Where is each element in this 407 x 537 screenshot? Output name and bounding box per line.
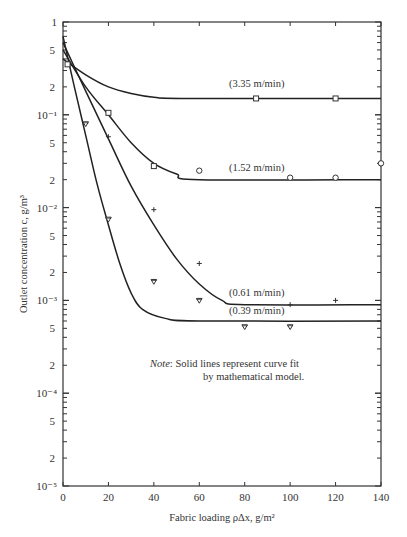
y-tick-label: 2 <box>50 266 56 278</box>
y-tick-label: 10⁻¹ <box>37 109 57 121</box>
circle-marker <box>287 175 292 180</box>
y-axis-title: Outlet concentration c, g/m³ <box>18 195 29 313</box>
square-marker <box>106 110 111 115</box>
note-line1: : Solid lines represent curve fit <box>170 358 299 369</box>
y-tick-label: 5 <box>50 322 56 334</box>
y-tick-label: 1 <box>52 16 58 28</box>
circle-marker <box>197 168 202 173</box>
x-tick-label: 40 <box>148 491 160 503</box>
x-axis-title: Fabric loading ρΔx, g/m² <box>169 512 275 523</box>
chart: 02040608010012014015210⁻¹5210⁻²5210⁻³521… <box>0 0 407 537</box>
fit-curve-335 <box>63 59 381 99</box>
square-marker <box>254 96 259 101</box>
x-tick-label: 0 <box>60 491 66 503</box>
y-tick-label: 5 <box>50 137 56 149</box>
curve-label-1.52: (1.52 m/min) <box>229 162 285 174</box>
x-tick-label: 60 <box>194 491 206 503</box>
x-tick-label: 20 <box>103 491 115 503</box>
y-tick-label: 10⁻³ <box>37 294 58 306</box>
y-tick-label: 5 <box>50 44 56 56</box>
axes: 02040608010012014015210⁻¹5210⁻²5210⁻³521… <box>18 16 390 523</box>
square-marker <box>151 164 156 169</box>
y-tick-label: 2 <box>50 174 56 186</box>
square-marker <box>65 62 70 67</box>
fit-curve-061 <box>63 43 381 305</box>
x-tick-label: 140 <box>373 491 390 503</box>
y-tick-label: 10⁻² <box>37 202 58 214</box>
y-tick-label: 10⁻⁵ <box>36 480 57 492</box>
square-marker <box>333 96 338 101</box>
y-tick-label: 2 <box>50 359 56 371</box>
circle-marker <box>333 175 338 180</box>
curve-label-3.35: (3.35 m/min) <box>229 78 285 90</box>
y-tick-label: 2 <box>50 452 56 464</box>
data-markers <box>65 62 384 330</box>
y-tick-label: 5 <box>50 230 56 242</box>
curve-label-0.39: (0.39 m/min) <box>229 305 285 317</box>
curve-labels: (3.35 m/min)(1.52 m/min)(0.61 m/min)(0.3… <box>229 78 285 317</box>
note-annotation: Note: Solid lines represent curve fit by… <box>150 357 304 383</box>
x-tick-label: 120 <box>327 491 344 503</box>
y-tick-label: 2 <box>50 81 56 93</box>
y-tick-label: 10⁻⁴ <box>36 387 57 399</box>
curve-label-0.61: (0.61 m/min) <box>229 287 285 299</box>
x-tick-label: 100 <box>282 491 299 503</box>
y-tick-label: 5 <box>50 415 56 427</box>
note-label: Note <box>150 358 170 369</box>
note-line2: by mathematical model. <box>150 370 304 383</box>
plot-frame <box>63 22 381 486</box>
x-tick-label: 80 <box>239 491 251 503</box>
circle-marker <box>378 161 383 166</box>
